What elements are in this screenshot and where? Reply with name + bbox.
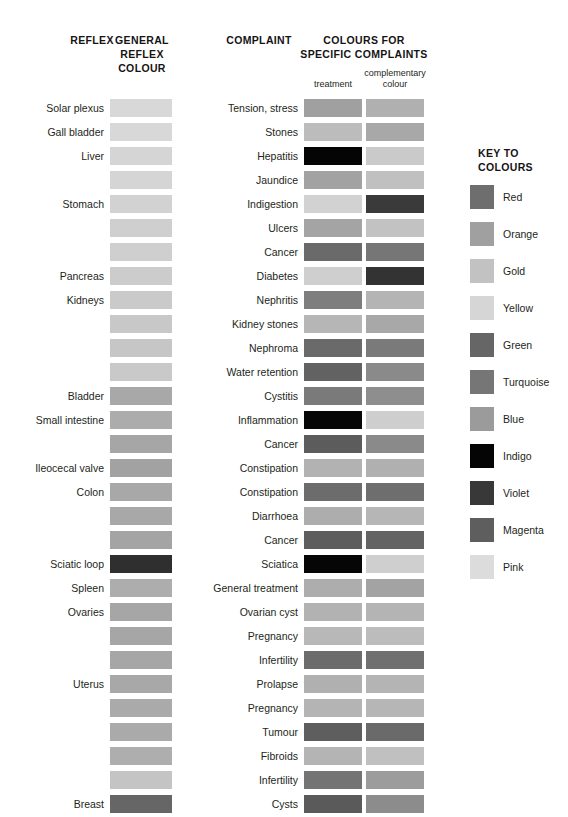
treatment-colour-swatch: [304, 603, 362, 621]
table-row: Ileocecal valveConstipation: [0, 459, 440, 477]
complaint-label: Indigestion: [178, 196, 298, 212]
table-row: Cancer: [0, 531, 440, 549]
complaint-label: Pregnancy: [178, 700, 298, 716]
reflex-label: Bladder: [0, 388, 104, 404]
complaint-label: Infertility: [178, 652, 298, 668]
complaint-label: Constipation: [178, 484, 298, 500]
general-reflex-colour-swatch: [110, 435, 172, 453]
complementary-colour-swatch: [366, 723, 424, 741]
complementary-colour-swatch: [366, 651, 424, 669]
treatment-colour-swatch: [304, 771, 362, 789]
general-reflex-colour-swatch: [110, 387, 172, 405]
general-reflex-colour-swatch: [110, 699, 172, 717]
legend-item: Green: [470, 333, 566, 357]
table-row: Pregnancy: [0, 627, 440, 645]
complementary-colour-swatch: [366, 147, 424, 165]
general-reflex-colour-swatch: [110, 531, 172, 549]
reflex-label: Sciatic loop: [0, 556, 104, 572]
complaint-label: Sciatica: [178, 556, 298, 572]
table-row: Fibroids: [0, 747, 440, 765]
general-reflex-colour-swatch: [110, 411, 172, 429]
complementary-colour-swatch: [366, 579, 424, 597]
complaint-label: Constipation: [178, 460, 298, 476]
table-row: BreastCysts: [0, 795, 440, 813]
table-row: Infertility: [0, 651, 440, 669]
complaint-label: Jaundice: [178, 172, 298, 188]
complaint-label: Nephroma: [178, 340, 298, 356]
complementary-colour-swatch: [366, 99, 424, 117]
complementary-colour-swatch: [366, 195, 424, 213]
table-row: Tumour: [0, 723, 440, 741]
general-reflex-colour-swatch: [110, 363, 172, 381]
general-reflex-colour-swatch: [110, 627, 172, 645]
treatment-colour-swatch: [304, 507, 362, 525]
general-reflex-colour-swatch: [110, 675, 172, 693]
reflex-label: Colon: [0, 484, 104, 500]
complementary-colour-swatch: [366, 291, 424, 309]
reflex-label: Liver: [0, 148, 104, 164]
table-row: Cancer: [0, 243, 440, 261]
table-row: Pregnancy: [0, 699, 440, 717]
general-reflex-colour-swatch: [110, 723, 172, 741]
table-row: Nephroma: [0, 339, 440, 357]
complementary-colour-swatch: [366, 771, 424, 789]
general-reflex-colour-swatch: [110, 771, 172, 789]
treatment-colour-swatch: [304, 291, 362, 309]
general-reflex-colour-swatch: [110, 123, 172, 141]
complaint-label: Prolapse: [178, 676, 298, 692]
general-reflex-colour-swatch: [110, 315, 172, 333]
treatment-colour-swatch: [304, 99, 362, 117]
legend-colour-swatch: [470, 444, 494, 468]
general-reflex-colour-swatch: [110, 579, 172, 597]
table-row: LiverHepatitis: [0, 147, 440, 165]
treatment-colour-swatch: [304, 795, 362, 813]
general-reflex-colour-swatch: [110, 219, 172, 237]
legend-item: Magenta: [470, 518, 566, 542]
complaint-label: General treatment: [178, 580, 298, 596]
legend-colour-swatch: [470, 296, 494, 320]
legend-colour-swatch: [470, 185, 494, 209]
reflex-label: Breast: [0, 796, 104, 812]
complaint-label: Fibroids: [178, 748, 298, 764]
general-reflex-colour-swatch: [110, 795, 172, 813]
table-row: SpleenGeneral treatment: [0, 579, 440, 597]
complaint-label: Ovarian cyst: [178, 604, 298, 620]
reflex-label: Stomach: [0, 196, 104, 212]
treatment-colour-swatch: [304, 123, 362, 141]
treatment-colour-swatch: [304, 267, 362, 285]
table-row: Kidney stones: [0, 315, 440, 333]
treatment-colour-swatch: [304, 555, 362, 573]
legend-colour-name: Magenta: [503, 522, 544, 538]
complementary-colour-swatch: [366, 435, 424, 453]
table-row: Diarrhoea: [0, 507, 440, 525]
complaint-label: Ulcers: [178, 220, 298, 236]
general-reflex-colour-swatch: [110, 243, 172, 261]
complaint-label: Kidney stones: [178, 316, 298, 332]
complaint-label: Stones: [178, 124, 298, 140]
complementary-colour-swatch: [366, 795, 424, 813]
legend-colour-name: Turquoise: [503, 374, 549, 390]
legend-item: Yellow: [470, 296, 566, 320]
legend-colour-swatch: [470, 370, 494, 394]
treatment-colour-swatch: [304, 651, 362, 669]
legend-colour-swatch: [470, 555, 494, 579]
reflex-label: Ileocecal valve: [0, 460, 104, 476]
complaint-label: Tension, stress: [178, 100, 298, 116]
legend-item: Pink: [470, 555, 566, 579]
complementary-colour-swatch: [366, 555, 424, 573]
treatment-colour-swatch: [304, 147, 362, 165]
treatment-colour-swatch: [304, 483, 362, 501]
complementary-colour-swatch: [366, 219, 424, 237]
treatment-colour-swatch: [304, 435, 362, 453]
legend-colour-name: Yellow: [503, 300, 533, 316]
general-reflex-colour-swatch: [110, 195, 172, 213]
complaint-label: Diabetes: [178, 268, 298, 284]
legend-colour-swatch: [470, 259, 494, 283]
legend-colour-name: Red: [503, 189, 522, 205]
legend-colour-name: Indigo: [503, 448, 532, 464]
table-row: Ulcers: [0, 219, 440, 237]
complementary-colour-swatch: [366, 243, 424, 261]
legend-colour-swatch: [470, 333, 494, 357]
general-reflex-colour-swatch: [110, 99, 172, 117]
legend-colour-name: Orange: [503, 226, 538, 242]
